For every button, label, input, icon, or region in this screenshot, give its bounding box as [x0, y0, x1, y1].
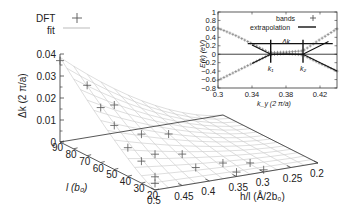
z-tick-label: 0.02 [37, 93, 57, 104]
inset-x-label: k_y (2 π/a) [257, 100, 291, 108]
inset-x-tick-label: 0.42 [313, 90, 328, 99]
z-tick-label: 0.04 [37, 49, 57, 60]
mesh-line-h [74, 66, 169, 188]
h-tick [233, 175, 237, 177]
dft-point [97, 104, 105, 112]
l-axis-label: l (b₀) [66, 182, 87, 193]
l-tick-label: 30 [133, 183, 145, 194]
delta-k-label: Δk [281, 38, 291, 45]
h-tick-label: 0.25 [283, 173, 303, 184]
h-tick [260, 170, 264, 172]
l-tick-label: 60 [93, 163, 105, 174]
inset-x-tick-label: 0.38 [279, 90, 294, 99]
z-tick-label: 0.03 [37, 71, 57, 82]
mesh-line-h [142, 101, 237, 177]
dft-point [110, 121, 118, 129]
l-tick-label: 80 [66, 149, 78, 160]
h-tick [314, 161, 318, 163]
legend-dft-label: DFT [36, 13, 55, 24]
inset-x-tick-label: 0.34 [245, 90, 260, 99]
h-tick-label: 0.4 [201, 186, 215, 197]
chart: 00.010.020.030.0490807060504030200.50.45… [0, 0, 347, 213]
inset-band-plot: 10.80.60.40.20−0.2−0.4−0.6−0.80.30.340.3… [199, 8, 339, 109]
l-tick-label: 50 [106, 169, 118, 180]
h-tick [287, 166, 291, 168]
l-tick-label: 70 [79, 156, 91, 167]
l-tick-label: 90 [52, 142, 64, 153]
legend: DFT fit [36, 13, 90, 36]
dft-point [83, 81, 91, 89]
z-axis-label: Δk (2 π/a) [17, 73, 28, 118]
h-axis-label: h/l (Å/2b₀) [240, 190, 285, 202]
dft-point [151, 179, 159, 187]
inset-legend-extrapolation: extrapolation [250, 24, 290, 32]
dft-point [56, 57, 64, 65]
dft-point [219, 159, 227, 167]
mesh-line-l [135, 153, 298, 168]
dft-point [178, 150, 186, 158]
inset-y-label: E(k) (eV) [199, 40, 207, 68]
legend-dft-marker [72, 13, 82, 23]
h-tick-label: 0.45 [174, 191, 194, 202]
dft-point [137, 130, 145, 138]
l-tick-label: 40 [120, 176, 132, 187]
k2-label: k₂ [300, 65, 307, 72]
z-tick-label: 0.01 [37, 115, 57, 126]
h-tick-label: 0.2 [310, 168, 324, 179]
inset-legend-bands: bands [276, 15, 296, 22]
h-tick-label: 0.3 [256, 177, 270, 188]
k1-label: k₁ [268, 65, 275, 72]
h-tick-label: 0.5 [147, 195, 161, 206]
legend-fit-label: fit [47, 25, 55, 36]
inset-x-tick-label: 0.3 [213, 90, 223, 99]
